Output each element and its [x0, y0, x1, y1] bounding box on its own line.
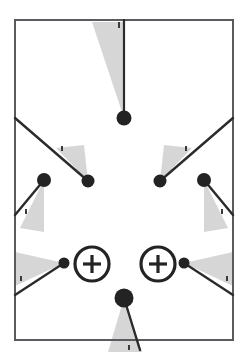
tick-target-right [226, 276, 228, 281]
schematic-canvas [0, 0, 248, 355]
node-bottom-center[interactable] [115, 289, 134, 308]
tick-bottom [128, 345, 130, 350]
tick-target-left [20, 276, 22, 281]
node-upper-right[interactable] [154, 175, 167, 188]
node-target-right[interactable] [179, 258, 190, 269]
tick-upper-left [61, 146, 63, 151]
target-symbol-left[interactable] [75, 247, 109, 281]
node-top-center[interactable] [117, 111, 132, 126]
tick-mid-left [25, 209, 27, 214]
node-mid-right[interactable] [197, 173, 211, 187]
tick-upper-right [185, 146, 187, 151]
diagram-stage [0, 0, 248, 355]
node-upper-left[interactable] [82, 175, 95, 188]
node-mid-left[interactable] [37, 173, 51, 187]
tick-mid-right [221, 209, 223, 214]
target-symbol-right[interactable] [141, 247, 175, 281]
tick-top [118, 22, 120, 28]
node-target-left[interactable] [59, 258, 70, 269]
